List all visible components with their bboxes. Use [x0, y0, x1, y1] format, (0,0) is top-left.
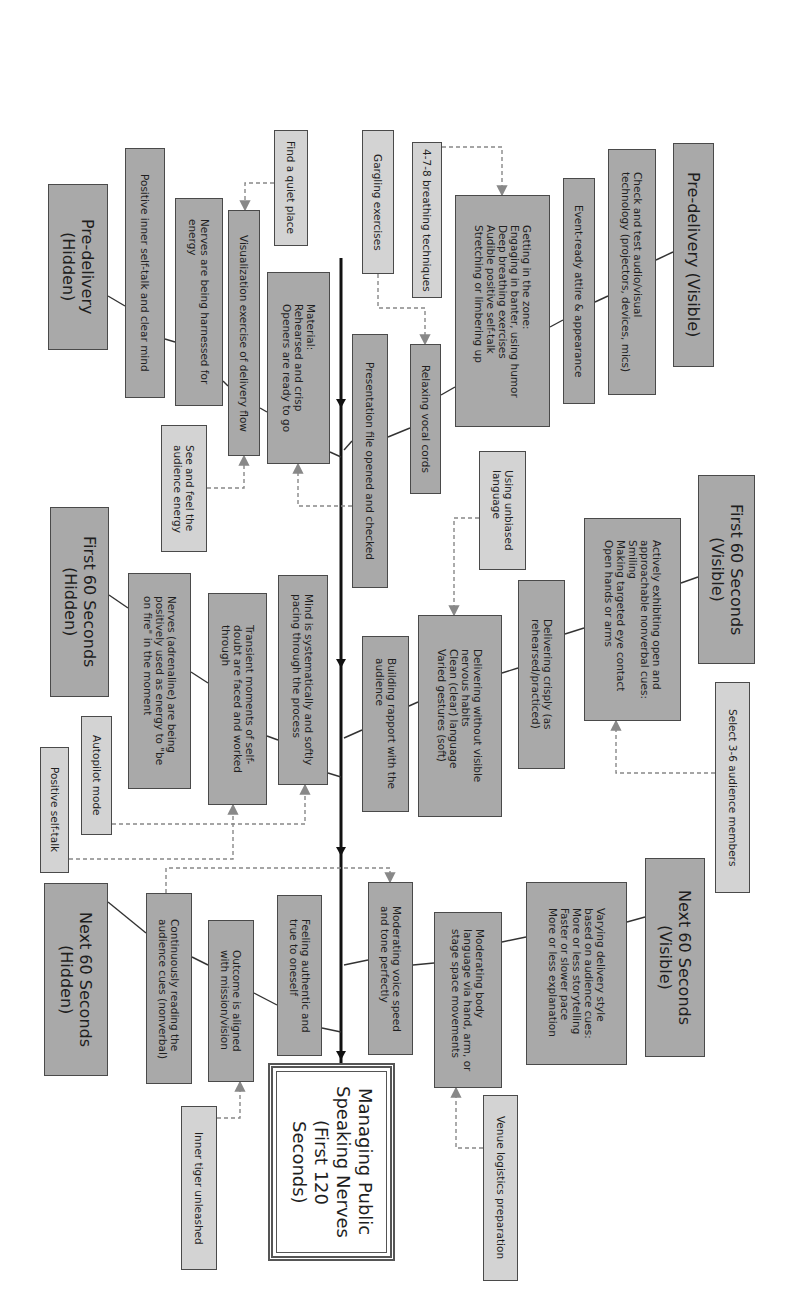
node-label: Building rapport with the audience	[374, 658, 398, 789]
node-label: Event-ready attire & appearance	[573, 205, 585, 377]
node-label: Venue logistics preparation	[495, 1116, 507, 1259]
node-nervous-habits: Delivering without visible nervous habit…	[418, 615, 502, 817]
node-label: Material: Rehearsed and crisp Openers ar…	[281, 304, 317, 432]
node-label: Autopilot mode	[91, 735, 103, 816]
node-next60-hidden: Next 60 Seconds (Hidden)	[44, 883, 108, 1076]
node-next60-visible: Next 60 Seconds (Visible)	[645, 858, 705, 1057]
node-label: Next 60 Seconds (Visible)	[656, 890, 694, 1025]
node-label: See and feel the audience energy	[172, 445, 196, 533]
node-nerves-adrenaline: Nerves (adrenaline) are being positively…	[128, 573, 191, 789]
node-positive-self-talk: Positive self-talk	[40, 747, 69, 873]
node-label: Moderating voice speed and tone perfectl…	[379, 906, 403, 1032]
node-label: Delivering without visible nervous habit…	[436, 649, 484, 782]
node-label: Pre-delivery (Visible)	[684, 172, 703, 337]
spine-arrowhead-icon	[336, 1051, 346, 1060]
node-material: Material: Rehearsed and crisp Openers ar…	[267, 272, 330, 464]
node-label: Getting in the zone: Engaging in banter,…	[473, 225, 533, 398]
node-rapport: Building rapport with the audience	[362, 636, 409, 812]
spine-arrowhead-icon	[336, 399, 346, 408]
node-pre-hidden: Pre-delivery (Hidden)	[48, 184, 108, 350]
node-vocal-cords: Relaxing vocal cords	[410, 344, 441, 494]
root-node-label: Managing Public Speaking Nerves (First 1…	[288, 1086, 376, 1238]
spine-arrowhead-icon	[336, 847, 346, 856]
node-label: Inner tiger unleashed	[193, 1132, 205, 1245]
node-varying-style: Varying delivery style based on audience…	[526, 882, 627, 1065]
node-inner-tiger: Inner tiger unleashed	[181, 1106, 217, 1270]
node-label: First 60 Seconds (Hidden)	[61, 536, 99, 667]
node-label: Positive inner self-talk and clear mind	[139, 174, 151, 372]
node-label: Visualization exercise of delivery flow	[238, 235, 250, 432]
node-label: Positive self-talk	[49, 767, 61, 852]
node-label: Continuously reading the audience cues (…	[157, 919, 181, 1059]
node-label: Delivering crisply (as rehearsed/practic…	[530, 619, 554, 730]
main-spine-arrow	[336, 258, 346, 1063]
node-label: Feeling authentic and true to oneself	[288, 919, 312, 1033]
node-label: Find a quiet place	[285, 141, 297, 234]
node-label: Next 60 Seconds (Hidden)	[57, 912, 95, 1047]
node-label: Varying delivery style based on audience…	[547, 908, 607, 1039]
diagram-canvas: Pre-delivery (Visible)Check and test aud…	[0, 0, 796, 1307]
spine-arrowhead-icon	[336, 659, 346, 668]
node-attire: Event-ready attire & appearance	[563, 178, 595, 404]
node-label: Select 3-6 audience members	[727, 709, 739, 866]
node-breathing-478: 4-7-8 breathing techniques	[412, 142, 442, 298]
node-label: Nerves are being harnessed for energy	[187, 219, 211, 384]
node-label: Gargling exercises	[372, 154, 384, 251]
node-label: Nerves (adrenaline) are being positively…	[142, 596, 178, 765]
node-mind-pacing: Mind is systematically and softly pacing…	[278, 575, 328, 785]
node-select-audience: Select 3-6 audience members	[715, 682, 750, 893]
root-node-title: Managing Public Speaking Nerves (First 1…	[268, 1063, 395, 1261]
node-voice-speed: Moderating voice speed and tone perfectl…	[368, 882, 413, 1055]
node-pre-visible: Pre-delivery (Visible)	[673, 143, 714, 367]
node-label: Outcome is aligned with mission/vision	[219, 950, 243, 1052]
node-crisply: Delivering crisply (as rehearsed/practic…	[518, 580, 565, 769]
node-nonverbal: Actively exhibiting open and approachabl…	[584, 518, 681, 721]
node-label: Presentation file opened and checked	[364, 362, 376, 560]
node-label: Using unbiased language	[491, 470, 515, 551]
node-first60-hidden: First 60 Seconds (Hidden)	[50, 507, 109, 697]
node-label: Transient moments of self- doubt are fac…	[220, 625, 256, 773]
node-zone: Getting in the zone: Engaging in banter,…	[455, 195, 550, 427]
node-label: First 60 Seconds (Visible)	[708, 504, 746, 635]
node-authentic: Feeling authentic and true to oneself	[277, 895, 322, 1056]
node-see-feel: See and feel the audience energy	[161, 425, 207, 552]
node-label: Mind is systematically and softly pacing…	[291, 594, 315, 765]
node-label: 4-7-8 breathing techniques	[421, 149, 433, 292]
node-body-language: Moderating body language via hand, arm, …	[434, 912, 502, 1088]
node-continuous: Continuously reading the audience cues (…	[146, 893, 192, 1084]
node-check-av: Check and test audio/visual technology (…	[608, 149, 656, 395]
node-visualization: Visualization exercise of delivery flow	[228, 210, 260, 456]
node-label: Pre-delivery (Hidden)	[59, 219, 97, 314]
node-autopilot: Autopilot mode	[81, 716, 112, 835]
node-first60-visible: First 60 Seconds (Visible)	[698, 475, 755, 664]
node-presentation-file: Presentation file opened and checked	[352, 334, 388, 588]
node-label: Actively exhibiting open and approachabl…	[603, 540, 663, 699]
node-transient: Transient moments of self- doubt are fac…	[208, 593, 267, 805]
node-positive-inner: Positive inner self-talk and clear mind	[125, 148, 165, 398]
node-label: Check and test audio/visual technology (…	[620, 172, 644, 372]
node-venue-logistics: Venue logistics preparation	[483, 1095, 518, 1281]
node-find-quiet: Find a quiet place	[274, 130, 308, 246]
node-outcome: Outcome is aligned with mission/vision	[208, 920, 254, 1082]
node-label: Moderating body language via hand, arm, …	[450, 929, 486, 1071]
node-nerves-harnessed: Nerves are being harnessed for energy	[175, 198, 223, 406]
node-gargling: Gargling exercises	[362, 130, 394, 274]
node-unbiased: Using unbiased language	[479, 451, 526, 570]
node-label: Relaxing vocal cords	[420, 365, 432, 473]
